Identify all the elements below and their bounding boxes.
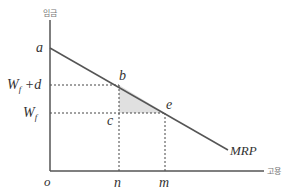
mrp-label: MRP: [229, 143, 257, 158]
mrp-diagram: 임금 고용 a b c e Wf +d Wf o n m MRP: [0, 0, 286, 191]
origin-label: o: [44, 174, 51, 189]
y-axis-label: 임금: [43, 9, 57, 18]
m-label: m: [159, 175, 169, 190]
point-e-label: e: [166, 97, 172, 112]
x-axis-label: 고용: [267, 167, 281, 176]
point-b-label: b: [119, 68, 126, 83]
shaded-triangle-bce: [119, 85, 165, 113]
point-c-label: c: [107, 113, 114, 128]
wf-plus-d-label: Wf +d: [7, 77, 42, 94]
n-label: n: [114, 175, 121, 190]
point-a-label: a: [36, 40, 43, 55]
wf-label: Wf: [23, 105, 39, 122]
mrp-curve: [50, 48, 228, 150]
